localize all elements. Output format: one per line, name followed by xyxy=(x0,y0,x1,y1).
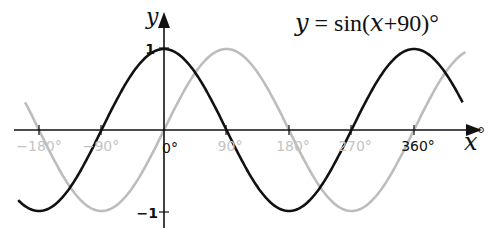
x-tick-label-180: 180° xyxy=(276,138,310,154)
equation-y: y xyxy=(294,9,309,37)
sine-chart: −180° −90° 0° 90° 180° 270° 360° 1 −1 y … xyxy=(0,0,491,237)
x-axis-label-degree: ° xyxy=(478,124,485,144)
y-axis-label: y xyxy=(145,4,159,29)
equation-label: y = sin(x+90)° xyxy=(294,9,439,37)
x-axis-label: x° xyxy=(464,124,485,156)
y-axis-arrow-icon xyxy=(158,12,170,28)
x-tick-label-minus-90: −90° xyxy=(83,138,120,154)
x-tick-label-90: 90° xyxy=(218,138,243,154)
equation-x: x xyxy=(370,9,384,37)
x-axis-label-x: x xyxy=(464,128,478,156)
y-tick-label-minus-1: −1 xyxy=(137,205,158,221)
x-tick-label-0: 0° xyxy=(162,140,178,156)
y-tick-label-1: 1 xyxy=(145,41,155,57)
equation-rest: = sin( xyxy=(309,10,371,36)
x-tick-label-minus-180: −180° xyxy=(16,138,61,154)
equation-tail: +90)° xyxy=(384,10,439,36)
x-tick-label-360: 360° xyxy=(401,138,435,154)
x-tick-label-270: 270° xyxy=(338,138,372,154)
